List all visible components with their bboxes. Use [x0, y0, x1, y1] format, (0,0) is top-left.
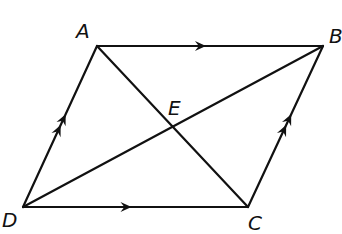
vertex-label-b: B: [329, 24, 342, 48]
diagonal-db: [23, 46, 323, 207]
vertex-label-c: C: [248, 211, 262, 234]
vertex-label-a: A: [74, 19, 90, 43]
intersection-label-e: E: [168, 96, 181, 120]
vertex-label-d: D: [2, 208, 17, 232]
parallelogram-diagram: A B C D E: [0, 0, 342, 234]
